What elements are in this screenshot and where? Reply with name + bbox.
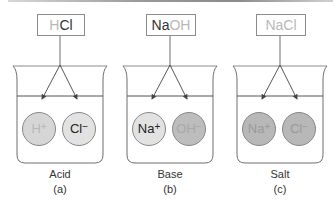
ion-charge: + xyxy=(264,121,270,132)
ion-symbol: Cl xyxy=(290,121,302,136)
ion-circle: Na+ xyxy=(242,112,276,146)
formula-part: H xyxy=(49,17,59,33)
formula-part: OH xyxy=(169,17,190,33)
type-label: Base xyxy=(114,168,226,180)
ion-circle: Cl− xyxy=(62,112,96,146)
type-label: Acid xyxy=(4,168,116,180)
ion-charge: + xyxy=(154,121,160,132)
ion-circle: Cl− xyxy=(282,112,316,146)
panel-acid: HCl H+ Cl− Acid (a) xyxy=(0,0,112,208)
ion-circle: OH− xyxy=(172,112,206,146)
ion-circle: H+ xyxy=(22,112,56,146)
ion-charge: − xyxy=(302,121,308,132)
ion-symbol: Na xyxy=(138,121,155,136)
type-label: Salt xyxy=(224,168,335,180)
formula-part: NaCl xyxy=(265,17,296,33)
ion-charge: + xyxy=(41,121,47,132)
panel-salt: NaCl Na+ Cl− Salt (c) xyxy=(220,0,332,208)
ion-symbol: Cl xyxy=(70,121,82,136)
formula-part: Na xyxy=(152,17,170,33)
ion-charge: − xyxy=(196,121,202,132)
formula-box: NaCl xyxy=(256,14,306,36)
formula-part: Cl xyxy=(59,17,72,33)
ion-symbol: OH xyxy=(176,121,196,136)
formula-box: NaOH xyxy=(146,14,196,36)
letter-label: (a) xyxy=(4,183,116,195)
ion-symbol: Na xyxy=(248,121,265,136)
ion-circle: Na+ xyxy=(132,112,166,146)
formula-box: HCl xyxy=(37,14,85,36)
letter-label: (b) xyxy=(114,183,226,195)
ion-charge: − xyxy=(82,121,88,132)
letter-label: (c) xyxy=(224,183,335,195)
ion-symbol: H xyxy=(31,121,40,136)
panel-base: NaOH Na+ OH− Base (b) xyxy=(110,0,222,208)
